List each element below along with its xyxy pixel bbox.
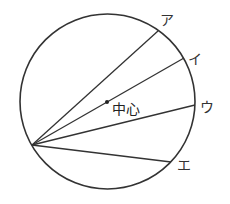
center-dot	[105, 100, 109, 104]
chord-label: ア	[160, 12, 174, 28]
chord-label: エ	[177, 157, 191, 173]
center-label: 中心	[112, 101, 140, 117]
chord-line	[32, 145, 171, 162]
chord-label: ウ	[200, 99, 214, 115]
circle-diagram: 中心 アイウエ	[0, 0, 230, 204]
chord-line	[32, 31, 158, 145]
chord-label: イ	[188, 51, 202, 67]
chord-labels: アイウエ	[160, 12, 214, 173]
chords	[32, 31, 195, 162]
